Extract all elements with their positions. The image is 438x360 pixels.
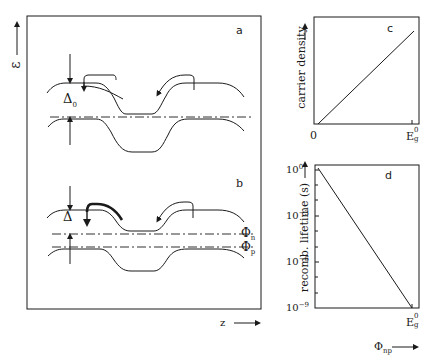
panel-b-right-flow-arrow — [158, 202, 193, 220]
panel-b-valence-band — [48, 249, 244, 271]
energy-axis-label: ε — [8, 61, 22, 68]
phi-np-axis-label: Φnp — [374, 341, 392, 352]
panel-d-lifetime-line — [318, 168, 412, 308]
phi-n-symbol: Φ — [241, 226, 251, 240]
tick-exponent: −6 — [299, 255, 309, 263]
carrier-density-axis-label: carrier density — [296, 23, 307, 113]
panel-a-valence-band — [48, 119, 244, 152]
y-tick-10e-9: 10−9 — [286, 303, 309, 313]
electron-quasi-fermi-label: Φn — [241, 227, 255, 239]
tick-base: 10 — [286, 210, 299, 221]
panel-b-left-flow-arrow-thick — [87, 204, 122, 223]
bandgap-symbol: E — [406, 316, 414, 329]
phi-p-subscript: p — [251, 248, 255, 256]
figure-canvas — [0, 0, 438, 360]
panel-c-x-tick-bandgap: E0g — [406, 130, 420, 142]
lifetime-axis-label: recomb. lifetime (s) — [299, 183, 310, 293]
tick-exponent: −9 — [299, 301, 309, 309]
panel-d-label: d — [385, 170, 392, 181]
panel-b-gap-label: Δ — [63, 210, 72, 223]
hole-quasi-fermi-label: Φp — [241, 241, 255, 253]
bandgap-superscript: 0 — [414, 313, 418, 320]
tick-exponent: −3 — [299, 209, 309, 217]
panel-d-x-tick-bandgap: E0g — [406, 316, 420, 328]
panel-c-x-tick-zero: 0 — [310, 130, 317, 141]
phi-p-symbol: Φ — [241, 240, 251, 254]
delta-subscript: 0 — [72, 101, 76, 109]
tick-base: 10 — [286, 256, 299, 267]
phi-np-subscript: np — [383, 347, 392, 355]
bandgap-subscript: g — [414, 136, 418, 143]
band-diagram-frame — [27, 16, 261, 309]
tick-base: 10 — [286, 302, 299, 313]
bandgap-subscript: g — [414, 322, 418, 329]
y-tick-10e0: 100 — [286, 165, 303, 175]
tick-exponent: 0 — [299, 163, 303, 171]
panel-c-label: c — [387, 23, 393, 34]
panel-a-left-flow-arrow — [84, 75, 116, 89]
bandgap-superscript: 0 — [414, 127, 418, 134]
panel-b-conduction-band — [47, 210, 244, 231]
z-axis-label: z — [220, 318, 225, 328]
delta-symbol: Δ — [63, 91, 72, 106]
panel-a-gap-label: Δ0 — [63, 92, 77, 105]
panel-b-label: b — [236, 178, 243, 189]
phi-symbol: Φ — [374, 340, 383, 353]
panel-c-axes — [314, 17, 419, 124]
panel-a-label: a — [236, 25, 243, 36]
bandgap-symbol: E — [406, 130, 414, 143]
y-tick-10e-6: 10−6 — [286, 257, 309, 267]
tick-base: 10 — [286, 164, 299, 175]
y-tick-10e-3: 10−3 — [286, 211, 309, 221]
panel-c-carrier-density-line — [318, 31, 414, 124]
